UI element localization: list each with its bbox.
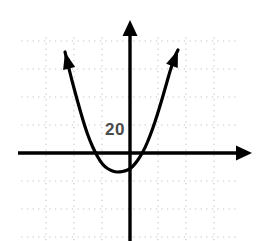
labels: 20 — [105, 120, 125, 139]
screenshot-root: 20 — [0, 0, 266, 241]
y-axis-value-label: 20 — [105, 120, 125, 139]
parabola-graph-figure: 20 — [0, 0, 266, 241]
graph-canvas: 20 — [0, 0, 266, 241]
canvas-background — [0, 0, 266, 241]
